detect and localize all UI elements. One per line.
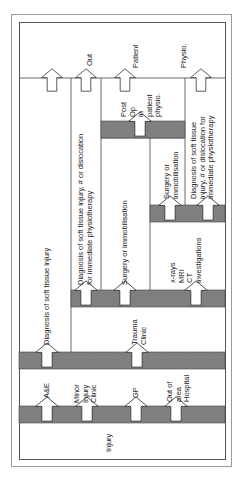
label-post-op-inpatient-physio: Post Op in patient physio.	[120, 93, 163, 117]
label-outcome-patient: Patient	[132, 45, 141, 68]
label-minor-injury-clinic: Minor Injury Clinic	[73, 384, 99, 403]
label-surgery-immobilisation-2: Surgery or immobilisation	[163, 151, 180, 199]
label-gp: GP	[132, 387, 141, 398]
label-out-of-area-hospital: Out of area Hospital	[166, 375, 192, 402]
label-diagnosis-immediate-physio-2: Diagnosis of soft tissue injury, # or di…	[190, 116, 216, 199]
label-ae: A&E	[43, 383, 52, 398]
band-stage3	[71, 290, 225, 307]
label-investigations: x-rays MRI CT investigations	[169, 238, 203, 283]
label-diagnosis-soft-tissue: Diagnosis of soft tissue injury	[43, 248, 52, 345]
label-diagnosis-immediate-physio: Diagnosis of soft tissue injury, # or di…	[77, 134, 94, 285]
arrow-up-icon	[115, 69, 136, 91]
arrow-up-icon	[76, 69, 97, 91]
label-outcome-out: Out	[86, 54, 95, 66]
arrow-up-icon	[191, 69, 212, 91]
label-outcome-physio: Physio.	[180, 43, 189, 68]
label-trauma-clinic: Trauma Clinic	[131, 319, 148, 345]
arrow-up-icon	[42, 69, 63, 91]
label-surgery-immobilisation: Surgery or immobilisation	[121, 200, 130, 285]
band-stage4	[150, 205, 225, 222]
label-injury: Injury	[105, 434, 114, 452]
